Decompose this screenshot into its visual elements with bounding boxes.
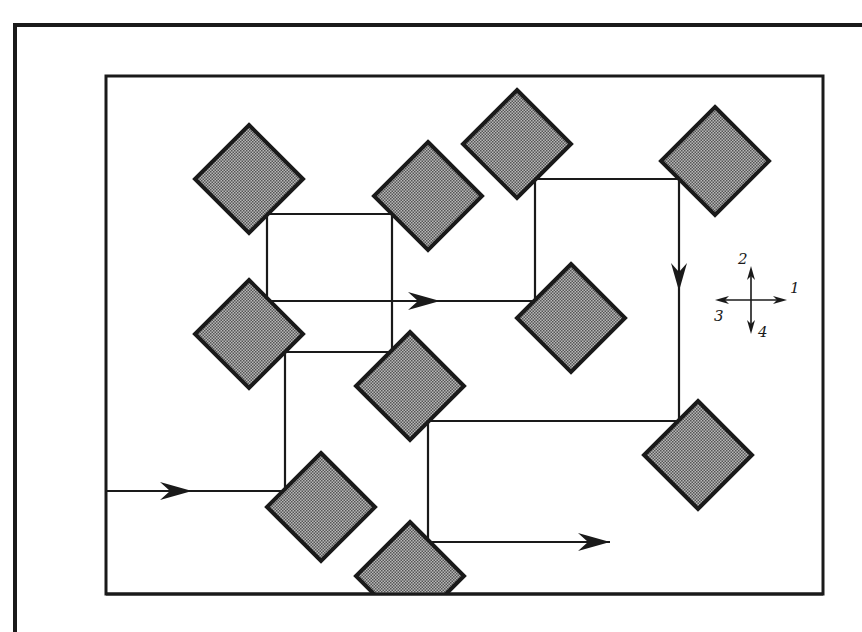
diamond-node-e [195, 280, 303, 388]
diamond-node-d [661, 107, 769, 215]
legend-label-west: 3 [714, 307, 724, 325]
network-diagram: 1234 [0, 0, 862, 632]
diamond-node-h [644, 401, 752, 509]
direction-legend: 1234 [714, 250, 800, 341]
diamond-node-a [195, 125, 303, 233]
legend-label-north: 2 [737, 250, 748, 268]
legend-label-south: 4 [757, 323, 768, 341]
legend-label-east: 1 [790, 279, 800, 297]
diamond-node-i [267, 453, 375, 561]
diamond-node-c [463, 90, 571, 198]
diamond-node-b [374, 142, 482, 250]
diamond-node-g [356, 332, 464, 440]
diamond-nodes [195, 90, 769, 630]
diamond-node-j [356, 522, 464, 630]
diamond-node-f [517, 264, 625, 372]
